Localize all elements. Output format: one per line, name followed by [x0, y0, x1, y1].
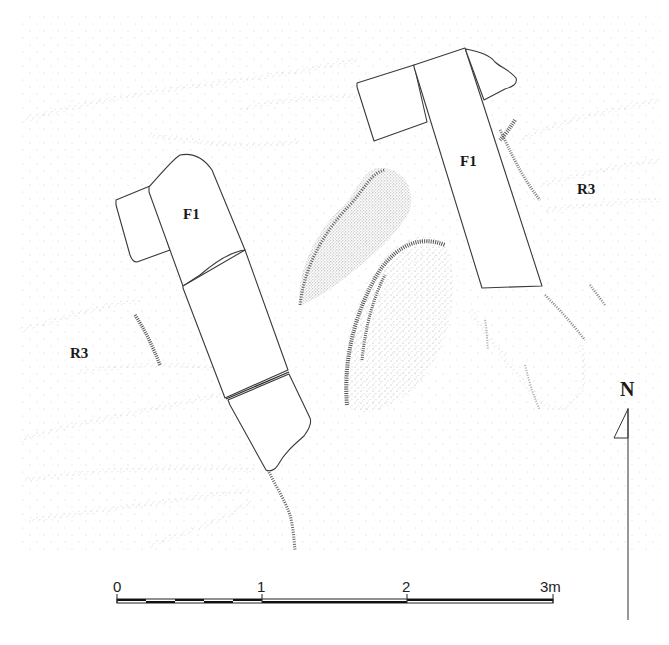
scale-tick-1: 1: [257, 578, 265, 595]
feature-label-left: F1: [183, 206, 200, 222]
feature-label-right: F1: [460, 153, 477, 169]
scale-tick-0: 0: [113, 578, 121, 595]
scale-tick-3: 3m: [540, 578, 561, 595]
scale-tick-2: 2: [402, 578, 410, 595]
site-plan-drawing: F1 F1 R3 R3 N 0 1 2 3m: [0, 0, 669, 645]
layer-label-left: R3: [70, 345, 88, 361]
scale-bar: 0 1 2 3m: [113, 578, 561, 603]
layer-label-right: R3: [577, 181, 595, 197]
north-label: N: [620, 378, 635, 400]
